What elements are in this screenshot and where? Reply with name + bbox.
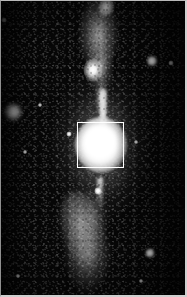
region-box-overlay[interactable]: [77, 122, 124, 168]
astronomical-image-figure: [0, 0, 187, 297]
sky-canvas: [1, 1, 185, 295]
